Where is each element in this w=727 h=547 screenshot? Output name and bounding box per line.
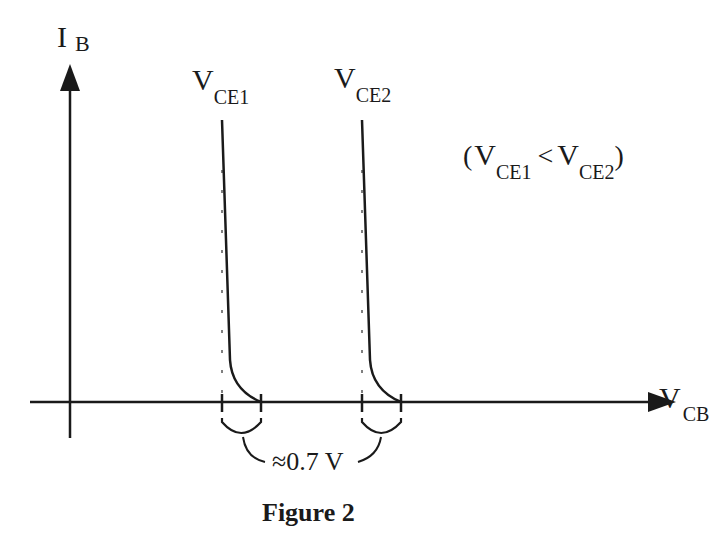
y-axis-arrow-icon bbox=[60, 64, 80, 91]
figure-caption: Figure 2 bbox=[262, 500, 355, 526]
x-axis-label-sub: CB bbox=[683, 403, 710, 425]
offset-brace-left bbox=[243, 437, 265, 462]
condition-open-paren: ( bbox=[463, 140, 472, 171]
curve-1 bbox=[222, 120, 261, 402]
condition-close-paren: ) bbox=[615, 140, 624, 171]
offset-brace-right bbox=[358, 437, 381, 462]
y-axis-label-main: I bbox=[57, 20, 67, 53]
curve-1-brace bbox=[222, 418, 261, 433]
x-axis-label-main: V bbox=[659, 381, 681, 414]
curve-2-label: VCE2 bbox=[334, 63, 391, 93]
figure-canvas: IB VCB VCE1 VCE2 (VCE1<VCE2) ≈0.7 V Figu… bbox=[0, 0, 727, 547]
offset-label: ≈0.7 V bbox=[272, 449, 344, 475]
curve-1-label-main: V bbox=[192, 63, 214, 96]
condition-operator: < bbox=[538, 140, 554, 171]
curve-1-label-sub: CE1 bbox=[214, 86, 250, 108]
curve-2 bbox=[362, 120, 401, 402]
curve-2-label-sub: CE2 bbox=[356, 84, 392, 106]
curve-2-label-main: V bbox=[334, 61, 356, 94]
condition-left-main: V bbox=[474, 138, 496, 171]
curve-2-brace bbox=[362, 418, 401, 433]
y-axis-label-sub: B bbox=[75, 31, 90, 56]
curve-1-label: VCE1 bbox=[192, 65, 249, 95]
y-axis-label: IB bbox=[57, 22, 90, 52]
condition-annotation: (VCE1<VCE2) bbox=[463, 140, 624, 170]
x-axis-label: VCB bbox=[659, 383, 709, 413]
condition-right-main: V bbox=[557, 138, 579, 171]
condition-right-sub: CE2 bbox=[579, 161, 615, 183]
condition-left-sub: CE1 bbox=[496, 161, 532, 183]
